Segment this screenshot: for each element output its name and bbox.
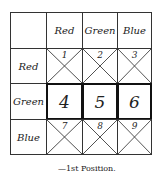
cell-9: 9: [117, 119, 152, 155]
figure-caption: —1st Position.: [58, 164, 116, 173]
cell-number: 2: [83, 50, 117, 60]
cell-number: 3: [118, 50, 151, 60]
cell-2: 2: [82, 48, 118, 84]
corner-cell: [10, 12, 47, 49]
row-header-green: Green: [10, 83, 47, 120]
row-header-blue: Blue: [10, 119, 47, 155]
cell-3: 3: [117, 48, 152, 84]
cell-number: 9: [118, 121, 151, 131]
cell-number: 1: [47, 50, 82, 60]
col-header-blue: Blue: [117, 12, 152, 49]
col-header-red: Red: [46, 12, 83, 49]
cell-number: 7: [47, 121, 82, 131]
cell-number: 8: [83, 121, 117, 131]
cell-6: 6: [117, 83, 152, 120]
row-header-red: Red: [10, 48, 47, 84]
color-grid: Red Green Blue Red 1 2 3 Green 4 5 6 Blu…: [10, 12, 152, 155]
cell-5: 5: [82, 83, 118, 120]
col-header-green: Green: [82, 12, 118, 49]
cell-7: 7: [46, 119, 83, 155]
cell-1: 1: [46, 48, 83, 84]
cell-4: 4: [46, 83, 83, 120]
cell-8: 8: [82, 119, 118, 155]
